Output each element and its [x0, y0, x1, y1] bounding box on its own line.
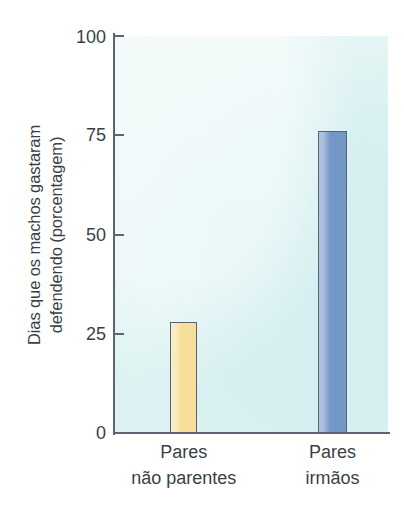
- x-label-pares-irmaos: Pares irmãos: [232, 440, 404, 491]
- y-tick-mark-50: [115, 234, 124, 236]
- bar-highlight: [171, 323, 197, 432]
- bar-pares-irmaos[interactable]: [318, 131, 347, 433]
- y-axis-title-line-1: Dias que os machos gastaram: [26, 125, 43, 345]
- y-axis-tick-labels: 100 75 50 25 0: [58, 0, 106, 513]
- y-tick-label-25: 25: [60, 325, 106, 343]
- x-axis-line: [113, 432, 390, 434]
- y-tick-label-50: 50: [60, 226, 106, 244]
- x-label-line-1: Pares: [232, 440, 404, 466]
- bars-layer: [113, 36, 388, 433]
- bar-pares-nao-parentes[interactable]: [170, 322, 198, 433]
- bar-chart-figure: Dias que os machos gastaram defendendo (…: [0, 0, 404, 513]
- x-label-line-2: irmãos: [232, 466, 404, 492]
- y-tick-mark-75: [115, 134, 124, 136]
- bar-highlight: [319, 132, 346, 432]
- y-tick-label-100: 100: [60, 28, 106, 46]
- x-axis-category-labels: Pares não parentes Pares irmãos: [113, 440, 388, 510]
- y-tick-mark-25: [115, 333, 124, 335]
- y-tick-mark-100: [115, 35, 124, 37]
- y-tick-label-75: 75: [60, 126, 106, 144]
